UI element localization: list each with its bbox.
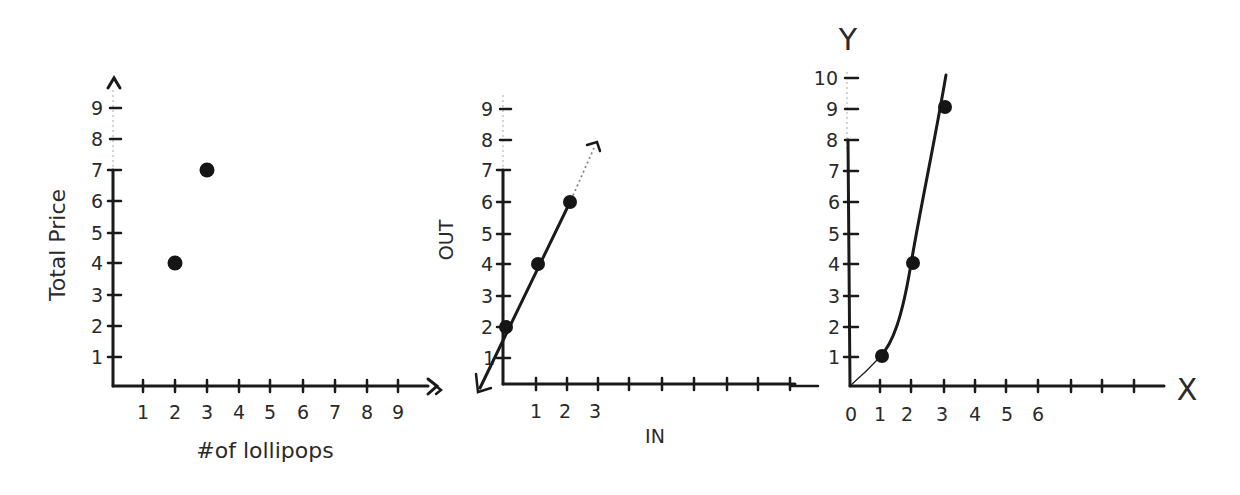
y-tick-label: 3	[91, 284, 103, 306]
x-tick-label: 4	[969, 403, 981, 425]
y-tick-label: 7	[828, 160, 840, 182]
y-axis-arrow-icon	[108, 78, 120, 88]
y-tick-label: 8	[91, 128, 103, 150]
y-axis-title: OUT	[435, 219, 457, 260]
y-axis-title: Y	[838, 22, 858, 57]
x-tick-label: 5	[1001, 403, 1013, 425]
y-tick-label: 1	[91, 346, 103, 368]
y-tick-label: 5	[481, 223, 493, 245]
x-tick-label: 7	[329, 401, 341, 423]
x-axis-title: X	[1177, 372, 1198, 407]
y-tick-label: 10	[814, 67, 838, 89]
y-tick-label: 4	[91, 252, 103, 274]
y-tick-label: 6	[828, 191, 840, 213]
x-tick-label: 2	[559, 400, 571, 422]
x-tick-label: 9	[392, 401, 404, 423]
data-point	[531, 257, 545, 271]
y-tick-label: 5	[91, 222, 103, 244]
x-tick-label: 1	[137, 401, 149, 423]
x-axis-title: #of lollipops	[196, 438, 333, 463]
x-tick-label: 5	[264, 401, 276, 423]
data-point	[168, 256, 183, 271]
y-tick-label: 3	[481, 285, 493, 307]
x-tick-labels: 0 1 2 3 4 5 6	[845, 403, 1044, 425]
x-tick-label: 3	[201, 401, 213, 423]
function-line-faint-extension	[571, 148, 594, 200]
chart-xy-square: 1 2 3 4 5 6 7 8 9 10 0 1 2 3 4 5 6 Y X	[790, 22, 1197, 425]
y-tick-labels: 1 2 3 4 5 6 7 8 9	[91, 97, 103, 368]
y-tick-label: 1	[828, 346, 840, 368]
y-tick-label: 4	[481, 253, 493, 275]
x-tick-label: 3	[589, 400, 601, 422]
chart-in-out: 1 2 3 4 5 6 7 8 9 1 2 3 OUT IN	[435, 95, 795, 447]
y-tick-label: 2	[481, 316, 493, 338]
x-tick-label: 2	[169, 401, 181, 423]
x-tick-label: 8	[361, 401, 373, 423]
function-line	[480, 200, 571, 388]
x-tick-label: 1	[874, 403, 886, 425]
data-point	[499, 320, 513, 334]
y-tick-labels: 1 2 3 4 5 6 7 8 9 10	[814, 67, 840, 368]
chart-canvas: 1 2 3 4 5 6 7 8 9 1 2 3 4 5 6 7 8 9 Tota…	[0, 0, 1240, 495]
function-curve-thin	[851, 357, 880, 385]
x-tick-label: 6	[297, 401, 309, 423]
y-tick-label: 7	[91, 159, 103, 181]
y-ticks	[844, 78, 858, 357]
y-tick-label: 4	[828, 253, 840, 275]
y-tick-label: 7	[481, 159, 493, 181]
y-tick-label: 9	[826, 98, 838, 120]
y-tick-label: 6	[481, 191, 493, 213]
y-tick-labels: 1 2 3 4 5 6 7 8 9	[481, 98, 495, 369]
y-tick-label: 2	[91, 315, 103, 337]
y-tick-label: 9	[481, 98, 493, 120]
x-tick-labels: 1 2 3	[530, 400, 601, 422]
data-point	[563, 195, 577, 209]
y-tick-label: 9	[91, 97, 103, 119]
y-tick-label: 8	[826, 129, 838, 151]
x-tick-label: 3	[936, 403, 948, 425]
x-tick-label: 6	[1032, 403, 1044, 425]
y-axis-title: Total Price	[45, 189, 70, 302]
y-tick-label: 6	[91, 190, 103, 212]
data-point	[200, 163, 215, 178]
x-axis-title: IN	[645, 425, 665, 447]
y-tick-label: 3	[828, 285, 840, 307]
x-tick-label: 2	[901, 403, 913, 425]
function-curve	[880, 75, 946, 357]
y-tick-label: 5	[828, 223, 840, 245]
x-tick-labels: 1 2 3 4 5 6 7 8 9	[137, 401, 404, 423]
y-tick-label: 8	[481, 129, 493, 151]
x-tick-label: 0	[845, 403, 857, 425]
chart-lollipops: 1 2 3 4 5 6 7 8 9 1 2 3 4 5 6 7 8 9 Tota…	[45, 78, 437, 463]
y-tick-label: 2	[828, 316, 840, 338]
data-point	[875, 349, 889, 363]
data-point	[938, 100, 952, 114]
left-arrow-mark-icon	[436, 386, 441, 394]
x-tick-label: 1	[530, 400, 542, 422]
data-point	[906, 256, 920, 270]
x-tick-label: 4	[233, 401, 245, 423]
